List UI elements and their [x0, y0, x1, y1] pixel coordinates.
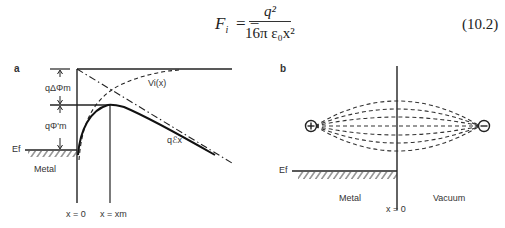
total-potential-curve — [78, 105, 215, 155]
metal-label: Metal — [34, 164, 56, 174]
band-diagrams: a qΔΦm qΦ'm Ef Metal Vi(x) — [0, 0, 505, 228]
vacuum-label: Vacuum — [433, 193, 465, 203]
metal-hatching-b — [298, 172, 397, 179]
x0-label-b: x = 0 — [386, 204, 406, 214]
phi-prime-label: qΦ'm — [45, 121, 66, 131]
ef-label: Ef — [12, 144, 21, 154]
x0-label: x = 0 — [66, 209, 86, 219]
vi-label: Vi(x) — [148, 78, 166, 88]
xm-label: x = xm — [100, 209, 127, 219]
field-label: qℰx — [167, 135, 182, 145]
panel-b: b Ef Metal Vacuum x = 0 — [279, 63, 490, 214]
negative-charge-icon — [479, 121, 490, 132]
metal-label-b: Metal — [339, 193, 361, 203]
metal-hatching — [28, 151, 77, 157]
panel-b-label: b — [280, 63, 286, 74]
delta-phi-label: qΔΦm — [45, 83, 71, 93]
ef-label-b: Ef — [279, 165, 288, 175]
panel-a: a qΔΦm qΦ'm Ef Metal Vi(x) — [12, 63, 232, 219]
panel-a-label: a — [14, 63, 20, 74]
positive-charge-icon — [306, 121, 317, 132]
